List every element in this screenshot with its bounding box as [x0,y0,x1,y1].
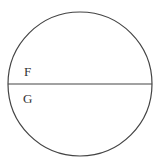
region-label-f: F [24,65,31,78]
circle-diagram [0,0,162,162]
region-label-g: G [23,92,32,105]
